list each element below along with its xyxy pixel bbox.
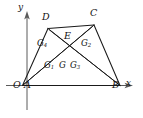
label-base-G4: G xyxy=(37,38,44,48)
point-label-C: C xyxy=(90,8,97,18)
point-label-B: B xyxy=(112,80,119,90)
label-base-G2: G xyxy=(81,38,88,48)
diagonals-group xyxy=(23,25,121,86)
x-axis-label: x xyxy=(126,79,131,88)
point-label-G1: G1 xyxy=(44,61,54,71)
point-label-G2: G2 xyxy=(81,39,91,49)
point-label-G: G xyxy=(59,61,66,71)
point-label-G4: G4 xyxy=(37,39,47,49)
label-sub-G3: 3 xyxy=(77,64,80,70)
label-base-G3: G xyxy=(70,60,77,70)
segment-AD xyxy=(23,29,49,86)
point-label-O: O xyxy=(13,80,21,90)
label-sub-G4: 4 xyxy=(44,42,47,48)
label-base-G: G xyxy=(59,60,66,70)
segment-DC xyxy=(48,25,94,29)
label-base-G1: G xyxy=(44,60,51,70)
geometry-figure: y x O A B C D E G4 G2 G1 G G3 xyxy=(0,0,143,118)
label-sub-G2: 2 xyxy=(88,42,91,48)
y-axis-label: y xyxy=(18,3,23,12)
trapezoid-outline xyxy=(23,25,121,86)
point-label-E: E xyxy=(64,31,71,41)
point-label-A: A xyxy=(24,80,31,90)
geometry-canvas xyxy=(0,0,143,118)
label-sub-G1: 1 xyxy=(51,64,54,70)
point-label-D: D xyxy=(42,12,50,22)
segment-CB xyxy=(94,25,120,86)
point-label-G3: G3 xyxy=(70,61,80,71)
